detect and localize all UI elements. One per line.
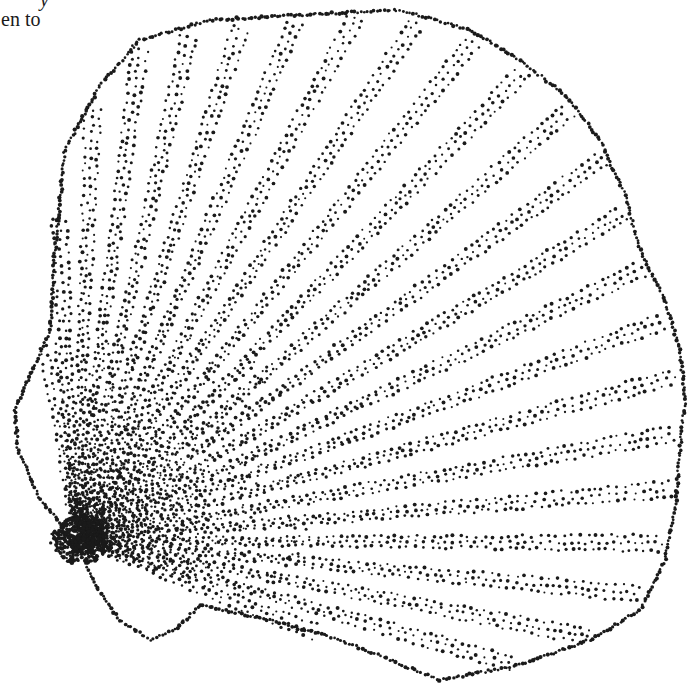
scallop-shell-illustration (0, 0, 697, 684)
stipple-dots (13, 8, 687, 683)
